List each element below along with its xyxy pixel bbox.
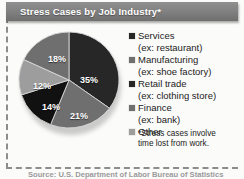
legend-item-services: Services bbox=[129, 30, 241, 41]
source-credit: Source: U.S. Department of Labor Bureau … bbox=[28, 170, 244, 179]
pie-label-manufacturing: 18% bbox=[48, 54, 66, 64]
legend-example-services: (ex: restaurant) bbox=[138, 42, 241, 53]
legend-label: Manufacturing bbox=[138, 54, 198, 65]
legend-label: Finance bbox=[138, 102, 172, 113]
legend-label: Retail trade bbox=[138, 78, 187, 89]
pie-label-finance: 14% bbox=[42, 102, 60, 112]
legend-swatch-icon bbox=[129, 33, 135, 39]
footnote-line-2: time lost from work. bbox=[138, 139, 242, 149]
title-bar: Stress Cases by Job Industry* bbox=[6, 2, 238, 21]
legend-swatch-icon bbox=[129, 105, 135, 111]
legend-swatch-icon bbox=[129, 81, 135, 87]
pie-chart: 35% 21% 14% 12% 18% bbox=[17, 29, 125, 137]
infographic-root: Stress Cases by Job Industry* 35% 21% 14… bbox=[0, 0, 244, 179]
legend-example-retail-trade: (ex: clothing store) bbox=[138, 90, 241, 101]
legend: Services (ex: restaurant) Manufacturing … bbox=[129, 30, 241, 138]
legend-item-manufacturing: Manufacturing bbox=[129, 54, 241, 65]
legend-example-finance: (ex: bank) bbox=[138, 114, 241, 125]
pie-label-services: 35% bbox=[80, 75, 98, 85]
pie-label-other: 12% bbox=[33, 81, 51, 91]
legend-swatch-icon bbox=[129, 57, 135, 63]
legend-item-finance: Finance bbox=[129, 102, 241, 113]
footnote: *Stress cases involve time lost from wor… bbox=[138, 129, 242, 148]
legend-label: Services bbox=[138, 30, 174, 41]
footnote-line-1: *Stress cases involve bbox=[138, 129, 242, 139]
legend-example-manufacturing: (ex: shoe factory) bbox=[138, 66, 241, 77]
pie-label-retail-trade: 21% bbox=[70, 111, 88, 121]
page-title: Stress Cases by Job Industry* bbox=[20, 6, 161, 17]
legend-item-retail-trade: Retail trade bbox=[129, 78, 241, 89]
legend-swatch-icon bbox=[129, 129, 135, 135]
